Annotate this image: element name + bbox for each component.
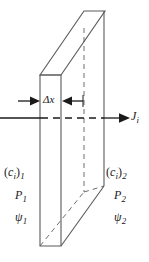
hidden-bottom-diagonal-front xyxy=(40,192,84,246)
left-concentration-subscript: 1 xyxy=(20,171,25,181)
flux-subscript: i xyxy=(136,115,139,125)
flux-axis-group xyxy=(0,113,130,123)
left-concentration-label: (ci)1 xyxy=(4,166,25,181)
right-pressure-subscript: 2 xyxy=(121,194,126,204)
membrane-slab-flux-diagram: Δx Ji (ci)1 P1 ψ1 (ci)2 P2 ψ2 xyxy=(0,0,149,262)
right-concentration-label: (ci)2 xyxy=(106,166,127,181)
left-potential-subscript: 1 xyxy=(22,216,27,226)
right-potential-subscript: 2 xyxy=(121,216,126,226)
thickness-arrow-left-head xyxy=(30,97,40,106)
bottom-right-diagonal xyxy=(61,186,104,246)
right-potential-label: ψ2 xyxy=(114,211,126,226)
right-pressure-label: P2 xyxy=(114,189,126,204)
left-potential-label: ψ1 xyxy=(15,211,27,226)
thickness-label: Δx xyxy=(43,94,54,105)
flux-label: Ji xyxy=(131,110,139,125)
flux-arrowhead xyxy=(119,113,130,123)
right-concentration-subscript: 2 xyxy=(122,171,127,181)
visible-edges-group xyxy=(40,11,105,246)
thickness-symbol: Δx xyxy=(43,93,54,105)
top-face xyxy=(40,11,105,75)
left-pressure-label: P1 xyxy=(15,189,27,204)
thickness-arrow-right-head xyxy=(62,97,72,106)
left-pressure-subscript: 1 xyxy=(22,194,27,204)
